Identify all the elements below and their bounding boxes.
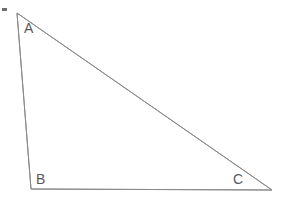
triangle-edge-ca xyxy=(17,13,272,190)
stray-mark xyxy=(2,8,7,11)
triangle-edge-ab xyxy=(17,13,31,189)
triangle-edge-bc xyxy=(31,189,272,190)
triangle-canvas xyxy=(0,0,283,199)
vertex-label-a: A xyxy=(24,21,33,35)
vertex-label-c: C xyxy=(233,172,243,186)
triangle-diagram: A B C xyxy=(0,0,283,199)
vertex-label-b: B xyxy=(36,172,45,186)
